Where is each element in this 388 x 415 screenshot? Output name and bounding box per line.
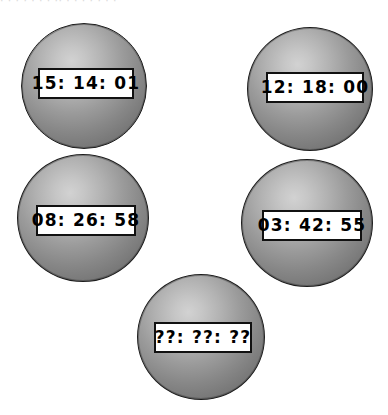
- time-readout-panel: 15: 14: 01: [38, 68, 134, 99]
- clock-sphere-middle-right[interactable]: 03: 42: 55: [241, 159, 373, 287]
- time-readout-panel: 12: 18: 00: [266, 72, 364, 103]
- clock-sphere-bottom-center[interactable]: ??: ??: ??: [137, 274, 265, 400]
- time-readout-panel: 03: 42: 55: [262, 210, 362, 241]
- time-readout-panel: 08: 26: 58: [36, 205, 136, 236]
- time-readout-value: 15: 14: 01: [32, 75, 140, 92]
- clock-sphere-top-left[interactable]: 15: 14: 01: [21, 23, 147, 149]
- time-readout-value: 03: 42: 55: [258, 217, 366, 234]
- clock-sphere-top-right[interactable]: 12: 18: 00: [247, 27, 373, 151]
- time-readout-value: 12: 18: 00: [261, 79, 369, 96]
- time-readout-value-unknown: ??: ??: ??: [155, 329, 252, 346]
- figure-canvas: · · · · · · · ·· · · · · · · · 15: 14: 0…: [0, 0, 388, 415]
- cropped-text-artifact: · · · · · · · ·· · · · · · · ·: [0, 0, 388, 6]
- time-readout-value: 08: 26: 58: [32, 212, 140, 229]
- clock-sphere-middle-left[interactable]: 08: 26: 58: [17, 154, 149, 282]
- time-readout-panel-unknown: ??: ??: ??: [154, 322, 252, 353]
